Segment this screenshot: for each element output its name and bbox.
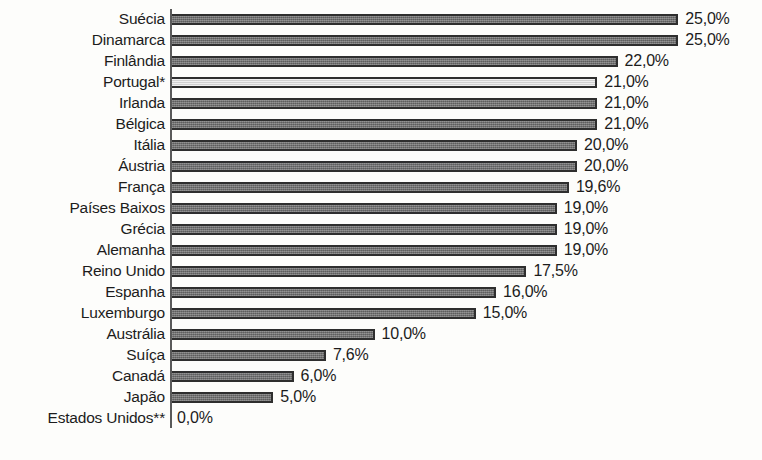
value-label: 21,0% (604, 114, 648, 135)
category-label: Portugal* (0, 72, 165, 93)
bar-row: França19,6% (0, 177, 762, 198)
bar-track: 25,0% (172, 30, 738, 51)
bar-row: Austrália10,0% (0, 324, 762, 345)
bar-track: 17,5% (172, 261, 738, 282)
bar-row: Itália20,0% (0, 135, 762, 156)
bar-track: 21,0% (172, 114, 738, 135)
value-label: 25,0% (685, 30, 729, 51)
value-label: 19,6% (576, 177, 620, 198)
bar-row: Suécia25,0% (0, 9, 762, 30)
bar-track: 15,0% (172, 303, 738, 324)
bar (172, 266, 526, 277)
bar-track: 5,0% (172, 387, 738, 408)
value-label: 7,6% (333, 345, 369, 366)
bar-track: 10,0% (172, 324, 738, 345)
bar-track: 0,0% (172, 408, 738, 429)
bar (172, 14, 678, 25)
category-label: Espanha (0, 282, 165, 303)
bar-row: Bélgica21,0% (0, 114, 762, 135)
bar-track: 21,0% (172, 72, 738, 93)
value-label: 22,0% (625, 51, 669, 72)
bar (172, 203, 557, 214)
bar-row: Reino Unido17,5% (0, 261, 762, 282)
category-label: Alemanha (0, 240, 165, 261)
value-label: 20,0% (584, 156, 628, 177)
bar (172, 350, 326, 361)
plot-area: Suécia25,0%Dinamarca25,0%Finlândia22,0%P… (0, 0, 762, 434)
bar (172, 287, 496, 298)
category-label: Canadá (0, 366, 165, 387)
bar-track: 25,0% (172, 9, 738, 30)
category-label: Itália (0, 135, 165, 156)
bar (172, 140, 577, 151)
value-label: 25,0% (685, 9, 729, 30)
category-label: Reino Unido (0, 261, 165, 282)
bar-track: 19,0% (172, 219, 738, 240)
bar-row: Países Baixos19,0% (0, 198, 762, 219)
bar-chart-figure: Suécia25,0%Dinamarca25,0%Finlândia22,0%P… (0, 0, 762, 460)
bar (172, 119, 597, 130)
bar-track: 21,0% (172, 93, 738, 114)
value-label: 6,0% (301, 366, 337, 387)
bar (172, 98, 597, 109)
category-label: Suécia (0, 9, 165, 30)
bar-row: Finlândia22,0% (0, 51, 762, 72)
value-label: 20,0% (584, 135, 628, 156)
bar (172, 392, 273, 403)
bar-track: 19,0% (172, 198, 738, 219)
bar (172, 245, 557, 256)
bar-track: 16,0% (172, 282, 738, 303)
category-label: Grécia (0, 219, 165, 240)
category-label: Áustria (0, 156, 165, 177)
figure-footer (0, 434, 762, 460)
category-label: Finlândia (0, 51, 165, 72)
bar-row: Espanha16,0% (0, 282, 762, 303)
category-label: Dinamarca (0, 30, 165, 51)
category-label: Suíça (0, 345, 165, 366)
bar (172, 35, 678, 46)
bar-row: Luxemburgo15,0% (0, 303, 762, 324)
bar-track: 20,0% (172, 135, 738, 156)
bar-row: Portugal*21,0% (0, 72, 762, 93)
category-label: Japão (0, 387, 165, 408)
value-label: 0,0% (177, 408, 213, 429)
value-label: 15,0% (483, 303, 527, 324)
bar-row: Áustria20,0% (0, 156, 762, 177)
bar-track: 22,0% (172, 51, 738, 72)
bar-row: Suíça7,6% (0, 345, 762, 366)
value-label: 21,0% (604, 93, 648, 114)
bar (172, 308, 476, 319)
bar-row: Japão5,0% (0, 387, 762, 408)
bar-track: 19,6% (172, 177, 738, 198)
value-label: 5,0% (280, 387, 316, 408)
category-label: Bélgica (0, 114, 165, 135)
value-label: 16,0% (503, 282, 547, 303)
bar (172, 371, 294, 382)
bar-row: Canadá6,0% (0, 366, 762, 387)
category-label: Luxemburgo (0, 303, 165, 324)
bar-track: 19,0% (172, 240, 738, 261)
bar-row: Grécia19,0% (0, 219, 762, 240)
bar (172, 329, 375, 340)
bar (172, 161, 577, 172)
bar-row: Alemanha19,0% (0, 240, 762, 261)
bar (172, 77, 597, 88)
category-label: Austrália (0, 324, 165, 345)
category-label: Países Baixos (0, 198, 165, 219)
bar-track: 20,0% (172, 156, 738, 177)
bar (172, 182, 569, 193)
value-label: 10,0% (382, 324, 426, 345)
bar-row: Estados Unidos**0,0% (0, 408, 762, 429)
value-label: 19,0% (564, 198, 608, 219)
bar-track: 6,0% (172, 366, 738, 387)
value-label: 21,0% (604, 72, 648, 93)
category-label: França (0, 177, 165, 198)
value-label: 19,0% (564, 219, 608, 240)
bar-row: Irlanda21,0% (0, 93, 762, 114)
category-label: Irlanda (0, 93, 165, 114)
value-label: 17,5% (533, 261, 577, 282)
bar-row: Dinamarca25,0% (0, 30, 762, 51)
value-label: 19,0% (564, 240, 608, 261)
category-label: Estados Unidos** (0, 408, 165, 429)
bar (172, 224, 557, 235)
